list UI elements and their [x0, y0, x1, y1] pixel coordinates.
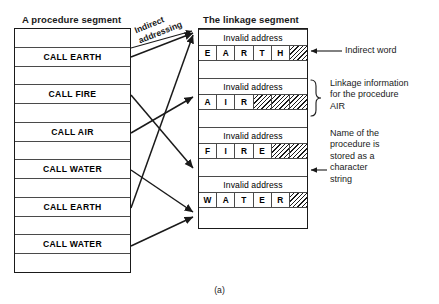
procedure-name-char-row: AIR: [199, 95, 307, 110]
char-cell: R: [235, 46, 253, 60]
link-arrow-fire: [131, 95, 193, 168]
char-cell: H: [272, 46, 290, 60]
procedure-name-char-row: EARTH: [199, 46, 307, 61]
char-cell-unused: [290, 95, 307, 109]
linkage-block: Invalid addressEARTH: [199, 29, 307, 61]
procedure-row-blank: [15, 104, 130, 123]
linkage-segment-title: The linkage segment: [203, 14, 299, 25]
char-cell: I: [217, 95, 235, 109]
procedure-row-call: CALL AIR: [15, 123, 130, 142]
char-cell: E: [254, 193, 272, 207]
char-cell: I: [217, 144, 235, 158]
linkage-block: Invalid addressFIRE: [199, 127, 307, 159]
procedure-row-call: CALL EARTH: [15, 198, 130, 217]
char-cell: R: [235, 95, 253, 109]
link-arrow-water-2: [131, 217, 193, 246]
char-cell: R: [235, 144, 253, 158]
char-cell: T: [235, 193, 253, 207]
link-arrow-earth-2: [131, 35, 193, 208]
linkage-gap-row: [199, 159, 307, 176]
link-arrow-air: [131, 97, 193, 133]
procedure-name-char-row: WATER: [199, 193, 307, 208]
linkage-gap-row: [199, 61, 307, 78]
procedure-segment-title: A procedure segment: [22, 14, 121, 25]
invalid-address-row: Invalid address: [199, 176, 307, 193]
linkage-block: Invalid addressWATER: [199, 176, 307, 208]
invalid-address-row: Invalid address: [199, 78, 307, 95]
figure-diagram: A procedure segment The linkage segment …: [0, 0, 439, 304]
linkage-segment-table: Invalid addressEARTHInvalid addressAIRIn…: [198, 28, 308, 229]
char-cell-unused: [290, 46, 307, 60]
invalid-address-row: Invalid address: [199, 127, 307, 144]
linkage-gap-row: [199, 110, 307, 127]
procedure-row-call: CALL FIRE: [15, 85, 130, 104]
link-arrow-water-1: [131, 170, 193, 212]
procedure-row-blank: [15, 67, 130, 86]
procedure-row-blank: [15, 179, 130, 198]
procedure-row-blank: [15, 142, 130, 161]
procedure-row-call: CALL WATER: [15, 235, 130, 254]
name-of-procedure-annotation: Name of the procedure is stored as a cha…: [330, 128, 380, 185]
char-cell-unused: [290, 144, 307, 158]
char-cell: T: [254, 46, 272, 60]
char-cell: A: [217, 193, 235, 207]
char-cell: R: [272, 193, 290, 207]
procedure-row-call: CALL WATER: [15, 160, 130, 179]
char-cell-unused: [272, 144, 290, 158]
char-cell: A: [199, 95, 217, 109]
indirect-addressing-label: Indirect addressing: [133, 0, 206, 45]
figure-caption: (a): [0, 285, 439, 295]
linkage-information-brace: [311, 80, 321, 116]
procedure-row-blank: [15, 217, 130, 236]
char-cell-unused: [254, 95, 272, 109]
char-cell: A: [217, 46, 235, 60]
char-cell: F: [199, 144, 217, 158]
indirect-word-annotation: Indirect word: [345, 45, 397, 56]
invalid-address-row: Invalid address: [199, 29, 307, 46]
procedure-row-call: CALL EARTH: [15, 48, 130, 67]
linkage-block: Invalid addressAIR: [199, 78, 307, 110]
char-cell-unused: [272, 95, 290, 109]
procedure-segment-table: CALL EARTHCALL FIRECALL AIRCALL WATERCAL…: [14, 28, 131, 273]
procedure-name-char-row: FIRE: [199, 144, 307, 159]
procedure-row-blank: [15, 29, 130, 48]
linkage-information-annotation: Linkage information for the procedure AI…: [330, 78, 409, 112]
char-cell-unused: [290, 193, 307, 207]
char-cell: E: [199, 46, 217, 60]
char-cell: W: [199, 193, 217, 207]
char-cell: E: [254, 144, 272, 158]
procedure-row-blank: [15, 254, 130, 272]
